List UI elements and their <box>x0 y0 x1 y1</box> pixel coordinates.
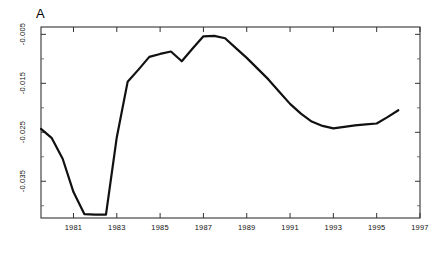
x-tick-label: 1993 <box>317 223 349 232</box>
x-tick-label: 1985 <box>144 223 176 232</box>
axes-frame <box>41 27 420 218</box>
y-tick-label: -0.025 <box>17 115 29 149</box>
y-tick-label: -0.015 <box>17 66 29 100</box>
y-tick-label: -0.005 <box>17 17 29 51</box>
panel-label: A <box>36 6 45 22</box>
chart-canvas <box>0 0 448 256</box>
x-tick-label: 1991 <box>274 223 306 232</box>
x-tick-label: 1981 <box>57 223 89 232</box>
y-tick-label: -0.035 <box>17 164 29 198</box>
x-tick-label: 1997 <box>404 223 436 232</box>
x-tick-label: 1995 <box>361 223 393 232</box>
x-tick-label: 1987 <box>187 223 219 232</box>
plot-frame-rect <box>41 27 420 218</box>
figure-panel-a: A -0.005-0.015-0.025-0.035 1981198319851… <box>0 0 448 256</box>
x-tick-label: 1983 <box>101 223 133 232</box>
x-tick-label: 1989 <box>231 223 263 232</box>
